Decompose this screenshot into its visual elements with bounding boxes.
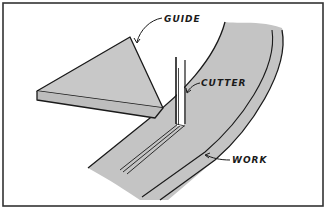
cutter-blade — [176, 57, 185, 126]
work-label: WORK — [232, 155, 268, 165]
diagram-figure: GUIDE CUTTER WORK — [0, 0, 326, 210]
cutter-label: CUTTER — [201, 78, 246, 88]
diagram-canvas: GUIDE CUTTER WORK — [0, 0, 326, 210]
guide-label: GUIDE — [164, 14, 201, 24]
